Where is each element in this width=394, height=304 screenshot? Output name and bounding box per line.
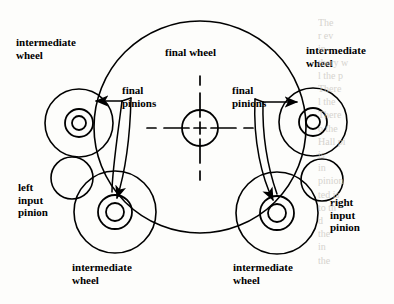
intermediate-wheel-top-right-shape — [279, 88, 347, 156]
intermediate-wheel-bottom-left-shape — [74, 171, 156, 253]
leader-final-pinions-right — [255, 99, 297, 200]
label-intermediate-wheel-top-right: intermediate wheel — [306, 44, 366, 69]
gear-train-diagram: intermediate wheel intermediate wheel fi… — [0, 0, 394, 304]
label-right-input-pinion: right input pinion — [330, 196, 360, 234]
left-input-pinion-circle — [51, 157, 93, 199]
intermediate-wheel-top-left-shape — [45, 89, 113, 157]
label-left-input-pinion: left input pinion — [18, 181, 48, 219]
right-input-pinion-circle — [301, 159, 343, 201]
label-final-pinions-left: final pinions — [122, 84, 156, 109]
intermediate-wheel-bottom-right-shape — [236, 172, 318, 254]
label-final-pinions-right: final pinions — [232, 84, 266, 109]
label-intermediate-wheel-top-left: intermediate wheel — [16, 36, 76, 61]
label-intermediate-wheel-bottom-left: intermediate wheel — [72, 261, 132, 286]
label-final-wheel: final wheel — [165, 46, 216, 59]
label-intermediate-wheel-bottom-right: intermediate wheel — [233, 261, 293, 286]
